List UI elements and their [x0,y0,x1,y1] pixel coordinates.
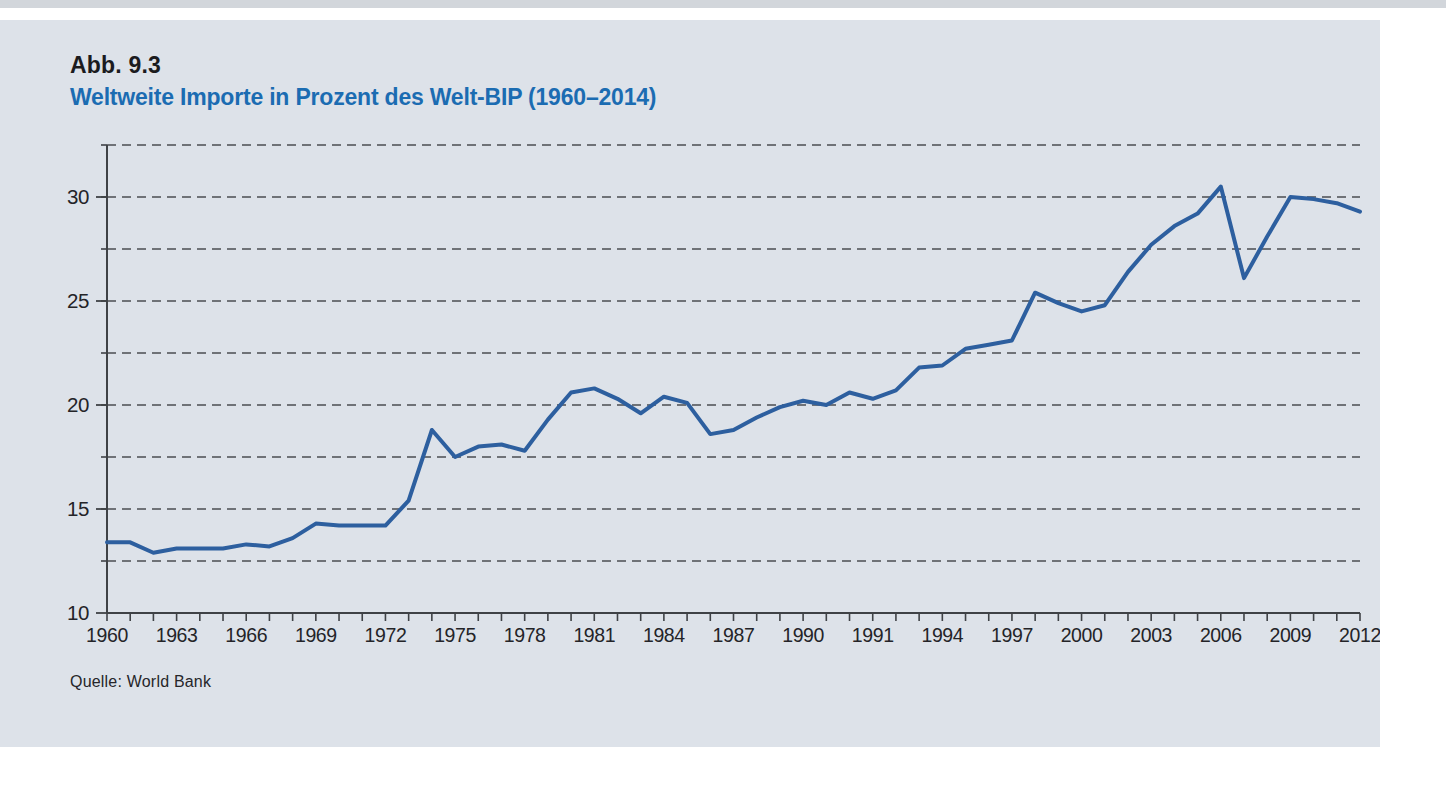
x-tick-label: 1997 [991,624,1033,646]
y-tick-label: 25 [67,289,89,312]
y-tick-label: 10 [67,601,89,624]
x-tick-label: 1960 [86,624,128,646]
x-tick-label: 1990 [782,624,824,646]
page-top-edge [0,0,1446,8]
line-chart: 1015202530196019631966196919721975197819… [0,20,1380,747]
x-tick-label: 2012 [1339,624,1380,646]
imports-data-line [107,187,1360,553]
x-tick-label: 1991 [852,624,894,646]
x-tick-label: 2006 [1200,624,1242,646]
x-tick-label: 2003 [1130,624,1172,646]
x-tick-label: 1975 [434,624,476,646]
x-tick-label: 1994 [921,624,963,646]
x-tick-label: 1978 [504,624,546,646]
x-tick-label: 1981 [573,624,615,646]
x-tick-label: 2009 [1269,624,1311,646]
figure-title: Weltweite Importe in Prozent des Welt-BI… [70,84,656,111]
figure-panel: Abb. 9.3 Weltweite Importe in Prozent de… [0,20,1380,747]
figure-source: Quelle: World Bank [70,673,211,691]
y-tick-label: 20 [67,393,89,416]
x-tick-label: 1963 [156,624,198,646]
x-tick-label: 1966 [225,624,267,646]
x-tick-label: 2000 [1061,624,1103,646]
y-tick-label: 15 [67,497,89,520]
x-tick-label: 1984 [643,624,685,646]
figure-label: Abb. 9.3 [70,52,161,79]
y-tick-label: 30 [67,185,89,208]
x-tick-label: 1972 [365,624,407,646]
x-tick-label: 1987 [713,624,755,646]
x-tick-label: 1969 [295,624,337,646]
